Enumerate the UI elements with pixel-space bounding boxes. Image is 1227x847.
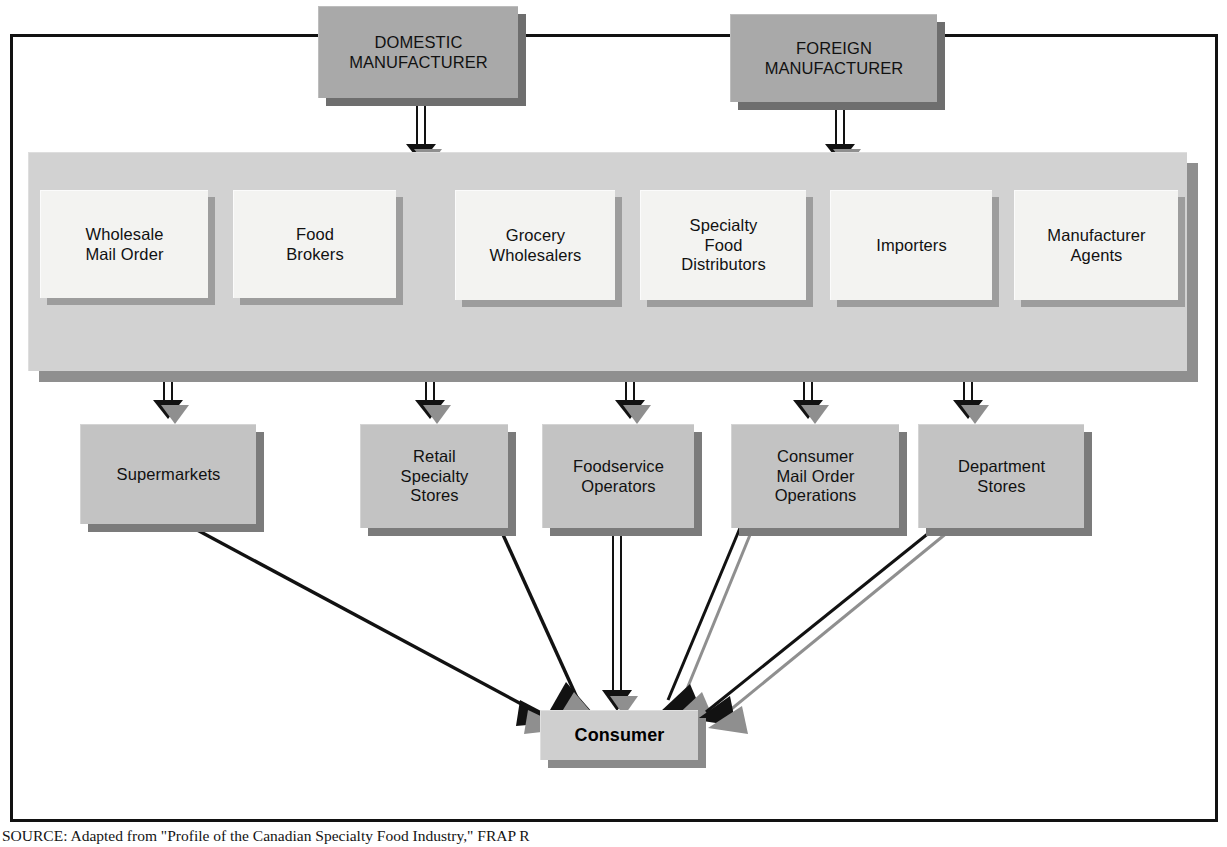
edge-foodservice-to-consumer: [613, 528, 621, 694]
edge-domestic-to-band: [417, 103, 425, 148]
node-label: Importers: [870, 236, 953, 255]
edge-band-to-foodservice: [626, 372, 634, 404]
node-supermarkets[interactable]: Supermarkets: [80, 424, 256, 524]
edge-band-to-department: [964, 372, 972, 404]
node-importers[interactable]: Importers: [830, 190, 992, 300]
node-foodservice-operators[interactable]: FoodserviceOperators: [542, 424, 694, 528]
node-label: ManufacturerAgents: [1041, 226, 1151, 265]
edge-department-to-consumer: [696, 528, 948, 734]
node-label: GroceryWholesalers: [484, 226, 588, 265]
node-label: FoodBrokers: [280, 225, 350, 264]
node-wholesale-mail-order[interactable]: WholesaleMail Order: [40, 190, 208, 298]
node-label: FOREIGNMANUFACTURER: [759, 39, 910, 78]
node-specialty-food-distributors[interactable]: SpecialtyFoodDistributors: [640, 190, 806, 300]
node-grocery-wholesalers[interactable]: GroceryWholesalers: [455, 190, 615, 300]
node-label: Supermarkets: [111, 465, 227, 484]
node-label: ConsumerMail OrderOperations: [769, 447, 863, 505]
node-food-brokers[interactable]: FoodBrokers: [233, 190, 396, 298]
node-label: Consumer: [569, 725, 671, 746]
edge-band-to-retail-specialty: [426, 372, 434, 404]
node-department-stores[interactable]: DepartmentStores: [918, 424, 1084, 528]
edge-consumer-mail-to-consumer: [660, 528, 752, 720]
edge-band-to-consumer-mail: [804, 372, 812, 404]
node-domestic-manufacturer[interactable]: DOMESTICMANUFACTURER: [318, 6, 518, 98]
node-label: WholesaleMail Order: [79, 225, 169, 264]
node-retail-specialty-stores[interactable]: RetailSpecialtyStores: [360, 424, 508, 528]
node-manufacturer-agents[interactable]: ManufacturerAgents: [1014, 190, 1178, 300]
edge-band-to-supermarkets: [164, 372, 172, 404]
node-label: SpecialtyFoodDistributors: [675, 216, 772, 274]
node-consumer-mail-order-operations[interactable]: ConsumerMail OrderOperations: [731, 424, 899, 528]
node-label: RetailSpecialtyStores: [395, 447, 475, 505]
node-consumer[interactable]: Consumer: [540, 710, 698, 760]
node-label: DOMESTICMANUFACTURER: [343, 33, 494, 72]
edge-foreign-to-band: [836, 103, 844, 148]
node-label: FoodserviceOperators: [567, 457, 670, 496]
diagram-canvas: DOMESTICMANUFACTURER FOREIGNMANUFACTURER…: [0, 0, 1227, 847]
source-caption: SOURCE: Adapted from "Profile of the Can…: [2, 827, 1225, 845]
edge-retail-specialty-to-consumer: [500, 528, 598, 720]
node-foreign-manufacturer[interactable]: FOREIGNMANUFACTURER: [730, 14, 937, 102]
node-label: DepartmentStores: [952, 457, 1051, 496]
